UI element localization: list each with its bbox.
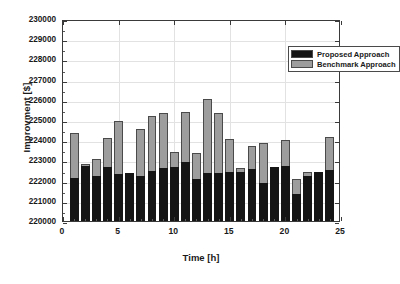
x-axis-tick-label: 5: [105, 226, 131, 236]
x-axis-tick-label: 15: [216, 226, 242, 236]
x-axis-tick-label: 10: [160, 226, 186, 236]
x-axis-tick-label: 20: [271, 226, 297, 236]
x-axis-tick-label: 25: [327, 226, 353, 236]
x-axis-tick-label: 0: [49, 226, 75, 236]
x-axis-title: Time [h]: [62, 252, 340, 263]
